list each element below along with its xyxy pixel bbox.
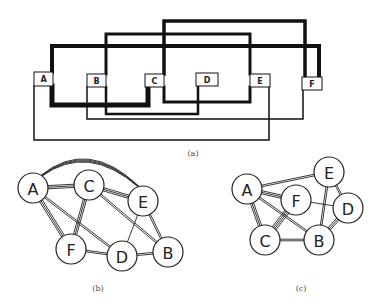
node-label: C xyxy=(83,177,94,196)
nodes: ACEFDB xyxy=(18,170,183,271)
node-label: F xyxy=(291,192,300,211)
module-label: A xyxy=(40,75,47,84)
node-e: E xyxy=(314,157,344,187)
node-label: B xyxy=(314,232,325,251)
wire-c-f xyxy=(164,21,305,77)
node-c: C xyxy=(250,225,280,255)
wire-b-d xyxy=(106,86,198,114)
node-a: A xyxy=(232,174,262,204)
node-d: D xyxy=(333,193,363,223)
node-d: D xyxy=(107,241,137,271)
node-f: F xyxy=(281,185,311,215)
node-label: B xyxy=(163,244,174,263)
module-label: F xyxy=(309,80,314,89)
node-c: C xyxy=(74,170,104,200)
node-label: E xyxy=(138,193,148,212)
node-f: F xyxy=(56,234,86,264)
module-box-e: E xyxy=(250,74,270,87)
module-label: D xyxy=(204,76,211,85)
figure-canvas: ABCDEF (a) ACEFDB (b) AEFDCB (c) xyxy=(0,0,378,304)
module-label: E xyxy=(257,77,262,86)
module-box-b: B xyxy=(87,74,106,87)
panel-b-graph: ACEFDB (b) xyxy=(18,159,183,293)
wire-b-e xyxy=(106,34,250,74)
caption-b: (b) xyxy=(92,284,103,293)
module-box-f: F xyxy=(302,77,322,90)
wire-c-e xyxy=(164,87,250,102)
node-label: E xyxy=(324,164,334,183)
node-b: B xyxy=(153,237,183,267)
node-label: A xyxy=(28,180,39,199)
node-label: A xyxy=(242,181,253,200)
node-b: B xyxy=(304,225,334,255)
node-e: E xyxy=(128,186,158,216)
node-label: C xyxy=(259,232,270,251)
panel-c-graph: AEFDCB (c) xyxy=(232,157,363,293)
caption-c: (c) xyxy=(296,284,307,293)
module-box-a: A xyxy=(34,72,53,86)
node-label: F xyxy=(66,241,75,260)
module-label: B xyxy=(93,77,99,86)
caption-a: (a) xyxy=(187,149,198,158)
module-boxes: ABCDEF xyxy=(34,72,322,90)
node-a: A xyxy=(18,173,48,203)
module-label: C xyxy=(152,77,158,86)
module-box-c: C xyxy=(145,74,164,87)
wire-a-c xyxy=(52,86,148,105)
wires xyxy=(34,21,319,140)
node-label: D xyxy=(116,248,128,267)
panel-a-wiring-diagram: ABCDEF (a) xyxy=(34,21,322,158)
node-label: D xyxy=(342,200,354,219)
module-box-d: D xyxy=(196,73,218,86)
wire-a-f xyxy=(52,46,319,77)
